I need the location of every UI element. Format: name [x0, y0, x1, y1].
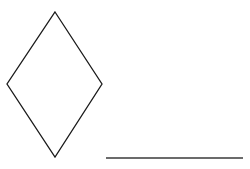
diagram-canvas	[0, 0, 250, 169]
diagram-background	[0, 0, 250, 169]
